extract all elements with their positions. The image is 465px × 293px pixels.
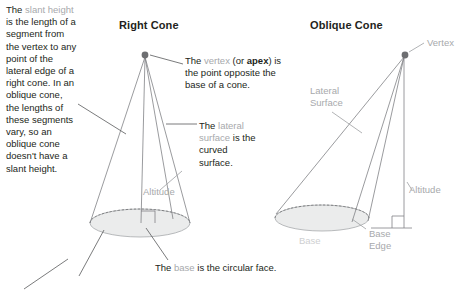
apex-term: apex: [247, 55, 269, 66]
oblique-cone-inner-segment: [352, 57, 404, 222]
base-caption: The base is the circular face.: [155, 262, 276, 273]
oblique-cone-title: Oblique Cone: [310, 19, 383, 31]
vertex-note-lead: The: [185, 55, 204, 66]
right-cone-altitude-line: [141, 57, 145, 223]
right-cone-right-edge: [145, 57, 190, 223]
lateral-note-lead: The: [199, 120, 218, 131]
base-caption-term: base: [174, 262, 195, 273]
oblique-vertex-label: Vertex: [427, 37, 454, 48]
lateral-surface-callout: The lateral surface is the curved surfac…: [199, 120, 261, 169]
oblique-base-edge-label: Base Edge: [369, 228, 405, 252]
right-cone-left-edge: [90, 57, 145, 223]
slant-height-lead: The: [6, 4, 25, 15]
oblique-vertex-leader: [409, 43, 424, 52]
oblique-altitude-label: Altitude: [409, 184, 441, 195]
vertex-note-term: vertex: [204, 55, 230, 66]
base-caption-rest: is the circular face.: [195, 262, 277, 273]
right-cone-title: Right Cone: [119, 19, 179, 31]
slant-height-term: slant height: [25, 4, 74, 15]
right-cone-altitude-label: Altitude: [143, 186, 175, 197]
base-caption-lead: The: [155, 262, 174, 273]
oblique-cone-left-edge: [276, 57, 404, 214]
base-leader-far-left: [24, 259, 68, 289]
oblique-lateral-surface-leader: [332, 112, 362, 133]
right-cone-vertex-dot: [142, 52, 149, 59]
base-leader-lower-left: [79, 230, 104, 276]
oblique-cone-vertex-dot: [402, 52, 409, 59]
vertex-note-leader: [150, 55, 183, 64]
diagram-canvas: The slant height is the length of a segm…: [0, 0, 465, 293]
slant-height-leader: [78, 104, 126, 134]
oblique-cone-right-edge: [368, 57, 404, 221]
slant-height-rest: is the length of a segment from the vert…: [6, 4, 79, 174]
oblique-base-label: Base: [299, 235, 321, 246]
oblique-lateral-surface-label: Lateral Surface: [310, 85, 362, 109]
slant-height-paragraph: The slant height is the length of a segm…: [6, 4, 78, 175]
vertex-note-mid: (or: [230, 55, 247, 66]
vertex-callout: The vertex (or apex) is the point opposi…: [185, 55, 293, 92]
